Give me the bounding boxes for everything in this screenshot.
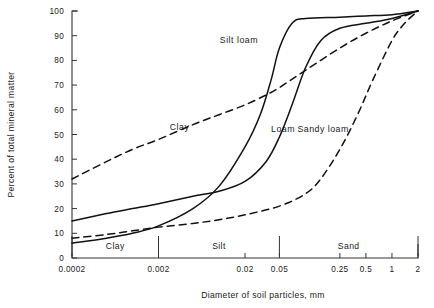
y-tick-label: 30 bbox=[54, 180, 64, 189]
x-tick-label: 0.002 bbox=[148, 265, 170, 274]
y-tick-label: 10 bbox=[54, 229, 64, 238]
series-curve-silt-loam bbox=[72, 11, 418, 243]
x-axis-title: Diameter of soil particles, mm bbox=[201, 290, 325, 300]
x-tick-label: 0.5 bbox=[360, 265, 372, 274]
size-class-label: Sand bbox=[338, 241, 360, 251]
series-labels: ClaySilt loamLoamSandy loam bbox=[170, 35, 349, 134]
size-class-label: Clay bbox=[106, 241, 125, 251]
y-tick-label: 40 bbox=[54, 155, 64, 164]
size-class-label: Silt bbox=[212, 241, 226, 251]
y-tick-label: 0 bbox=[59, 254, 64, 263]
y-tick-label: 90 bbox=[54, 32, 64, 41]
x-tick-label: 1 bbox=[390, 265, 395, 274]
axis-frame bbox=[72, 11, 418, 258]
y-tick-label: 60 bbox=[54, 106, 64, 115]
series-curves bbox=[72, 11, 418, 243]
series-label-silt-loam: Silt loam bbox=[220, 35, 258, 45]
x-tick-label: 0.02 bbox=[236, 265, 253, 274]
chart-svg: 0102030405060708090100 0.00020.0020.020.… bbox=[0, 0, 434, 308]
y-tick-label: 50 bbox=[54, 131, 64, 140]
y-axis-title: Percent of total mineral matter bbox=[6, 72, 16, 198]
x-axis-ticks: 0.00020.0020.020.050.250.512 bbox=[59, 253, 421, 274]
y-tick-label: 100 bbox=[49, 7, 64, 16]
series-label-sandy-loam: Sandy loam bbox=[297, 124, 348, 134]
size-class-labels: ClaySiltSand bbox=[106, 241, 360, 251]
y-axis-ticks: 0102030405060708090100 bbox=[49, 7, 77, 263]
x-tick-label: 0.25 bbox=[331, 265, 348, 274]
series-label-clay: Clay bbox=[170, 122, 190, 132]
x-tick-label: 0.0002 bbox=[59, 265, 86, 274]
y-tick-label: 80 bbox=[54, 56, 64, 65]
y-tick-label: 20 bbox=[54, 205, 64, 214]
x-tick-label: 2 bbox=[416, 265, 421, 274]
x-tick-label: 0.05 bbox=[271, 265, 288, 274]
soil-texture-chart: 0102030405060708090100 0.00020.0020.020.… bbox=[0, 0, 434, 308]
y-tick-label: 70 bbox=[54, 81, 64, 90]
series-label-loam: Loam bbox=[271, 124, 295, 134]
